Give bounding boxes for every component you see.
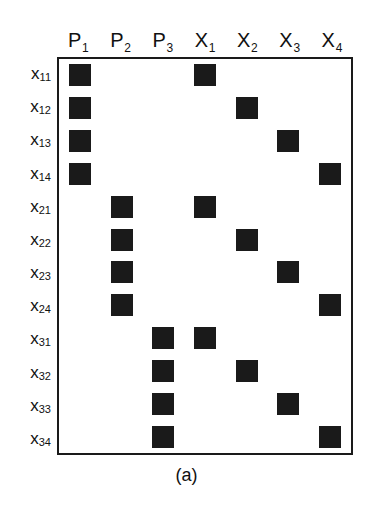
matrix-cell-x31-P1[interactable] — [59, 322, 101, 355]
matrix-cell-x21-P1[interactable] — [59, 190, 101, 223]
matrix-cell-x11-P2[interactable] — [101, 59, 143, 92]
subscript: 12 — [39, 105, 51, 116]
column-header-row: P1P2P3X1X2X3X4 — [57, 18, 353, 50]
matrix-cell-x11-P1[interactable] — [59, 59, 101, 92]
matrix-cell-x22-P1[interactable] — [59, 223, 101, 256]
matrix-cell-x12-X2[interactable] — [226, 92, 268, 125]
matrix-cell-x33-X2[interactable] — [226, 387, 268, 420]
filled-square-marker — [277, 261, 299, 283]
matrix-cell-x12-P3[interactable] — [142, 92, 184, 125]
matrix-cell-x24-X4[interactable] — [309, 289, 351, 322]
matrix-cell-x33-P1[interactable] — [59, 387, 101, 420]
subscript: 14 — [39, 172, 51, 183]
filled-square-marker — [277, 393, 299, 415]
matrix-cell-x33-P3[interactable] — [142, 387, 184, 420]
matrix-cell-x33-P2[interactable] — [101, 387, 143, 420]
matrix-cell-x11-P3[interactable] — [142, 59, 184, 92]
matrix-cell-x14-P2[interactable] — [101, 157, 143, 190]
matrix-cell-x22-X1[interactable] — [184, 223, 226, 256]
matrix-cell-x13-X3[interactable] — [268, 125, 310, 158]
matrix-cell-x21-P2[interactable] — [101, 190, 143, 223]
matrix-cell-x21-P3[interactable] — [142, 190, 184, 223]
matrix-cell-x23-X2[interactable] — [226, 256, 268, 289]
matrix-cell-x31-X2[interactable] — [226, 322, 268, 355]
matrix-cell-x32-X3[interactable] — [268, 354, 310, 387]
matrix-cell-x34-P2[interactable] — [101, 420, 143, 453]
matrix-cell-x24-X1[interactable] — [184, 289, 226, 322]
matrix-cell-x13-P2[interactable] — [101, 125, 143, 158]
empty-cell — [277, 327, 299, 349]
matrix-cell-x13-X4[interactable] — [309, 125, 351, 158]
matrix-cell-x14-X4[interactable] — [309, 157, 351, 190]
matrix-cell-x22-X2[interactable] — [226, 223, 268, 256]
matrix-cell-x31-P3[interactable] — [142, 322, 184, 355]
matrix-cell-x21-X2[interactable] — [226, 190, 268, 223]
matrix-cell-x24-P2[interactable] — [101, 289, 143, 322]
matrix-cell-x14-X2[interactable] — [226, 157, 268, 190]
matrix-cell-x13-X2[interactable] — [226, 125, 268, 158]
matrix-cell-x31-X3[interactable] — [268, 322, 310, 355]
matrix-cell-x21-X4[interactable] — [309, 190, 351, 223]
matrix-cell-x12-P2[interactable] — [101, 92, 143, 125]
subscript: 1 — [82, 42, 89, 54]
empty-cell — [319, 97, 341, 119]
matrix-cell-x23-X3[interactable] — [268, 256, 310, 289]
matrix-cell-x21-X3[interactable] — [268, 190, 310, 223]
matrix-cell-x32-X4[interactable] — [309, 354, 351, 387]
filled-square-marker — [319, 294, 341, 316]
matrix-cell-x31-X4[interactable] — [309, 322, 351, 355]
matrix-cell-x33-X1[interactable] — [184, 387, 226, 420]
matrix-cell-x13-P3[interactable] — [142, 125, 184, 158]
matrix-box — [57, 57, 353, 455]
matrix-cell-x34-X4[interactable] — [309, 420, 351, 453]
matrix-cell-x11-X2[interactable] — [226, 59, 268, 92]
matrix-cell-x31-X1[interactable] — [184, 322, 226, 355]
matrix-cell-x11-X3[interactable] — [268, 59, 310, 92]
matrix-cell-x32-P1[interactable] — [59, 354, 101, 387]
matrix-cell-x12-X4[interactable] — [309, 92, 351, 125]
matrix-cell-x22-X4[interactable] — [309, 223, 351, 256]
matrix-cell-x33-X3[interactable] — [268, 387, 310, 420]
matrix-cell-x34-P1[interactable] — [59, 420, 101, 453]
matrix-cell-x22-P3[interactable] — [142, 223, 184, 256]
matrix-cell-x32-X2[interactable] — [226, 354, 268, 387]
empty-cell — [236, 393, 258, 415]
matrix-cell-x23-P2[interactable] — [101, 256, 143, 289]
matrix-cell-x31-P2[interactable] — [101, 322, 143, 355]
matrix-cell-x23-P1[interactable] — [59, 256, 101, 289]
matrix-cell-x33-X4[interactable] — [309, 387, 351, 420]
matrix-cell-x32-P3[interactable] — [142, 354, 184, 387]
matrix-cell-x24-X3[interactable] — [268, 289, 310, 322]
matrix-cell-x11-X1[interactable] — [184, 59, 226, 92]
matrix-cell-x22-X3[interactable] — [268, 223, 310, 256]
empty-cell — [277, 229, 299, 251]
matrix-row-x14 — [59, 157, 351, 190]
matrix-cell-x21-X1[interactable] — [184, 190, 226, 223]
matrix-cell-x34-X3[interactable] — [268, 420, 310, 453]
matrix-cell-x14-P1[interactable] — [59, 157, 101, 190]
matrix-cell-x23-P3[interactable] — [142, 256, 184, 289]
matrix-cell-x13-P1[interactable] — [59, 125, 101, 158]
matrix-cell-x32-X1[interactable] — [184, 354, 226, 387]
matrix-cell-x12-X3[interactable] — [268, 92, 310, 125]
column-header-X4: X4 — [311, 18, 353, 50]
matrix-cell-x22-P2[interactable] — [101, 223, 143, 256]
matrix-cell-x14-X3[interactable] — [268, 157, 310, 190]
matrix-cell-x12-P1[interactable] — [59, 92, 101, 125]
subscript: 21 — [39, 205, 51, 216]
column-header-X2: X2 — [226, 18, 268, 50]
matrix-cell-x14-X1[interactable] — [184, 157, 226, 190]
matrix-cell-x13-X1[interactable] — [184, 125, 226, 158]
matrix-cell-x23-X4[interactable] — [309, 256, 351, 289]
matrix-cell-x12-X1[interactable] — [184, 92, 226, 125]
matrix-cell-x32-P2[interactable] — [101, 354, 143, 387]
matrix-cell-x34-X1[interactable] — [184, 420, 226, 453]
matrix-cell-x24-P3[interactable] — [142, 289, 184, 322]
matrix-cell-x34-X2[interactable] — [226, 420, 268, 453]
matrix-cell-x11-X4[interactable] — [309, 59, 351, 92]
matrix-cell-x24-P1[interactable] — [59, 289, 101, 322]
matrix-cell-x14-P3[interactable] — [142, 157, 184, 190]
matrix-cell-x34-P3[interactable] — [142, 420, 184, 453]
matrix-cell-x23-X1[interactable] — [184, 256, 226, 289]
matrix-cell-x24-X2[interactable] — [226, 289, 268, 322]
